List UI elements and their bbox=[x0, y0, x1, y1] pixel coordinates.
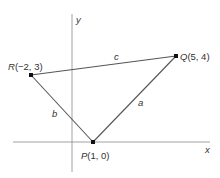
side-a bbox=[93, 56, 176, 142]
side-a-label: a bbox=[138, 97, 143, 108]
triangle-diagram: y x R(−2, 3) Q(5, 4) P(1, 0) a b c bbox=[0, 0, 220, 178]
x-axis-label: x bbox=[204, 144, 211, 155]
point-p-label: P(1, 0) bbox=[81, 150, 110, 161]
y-axis-label: y bbox=[75, 14, 82, 25]
point-q-label: Q(5, 4) bbox=[180, 51, 210, 62]
side-c-label: c bbox=[114, 51, 119, 62]
point-r-label: R(−2, 3) bbox=[8, 61, 43, 72]
side-c bbox=[31, 56, 176, 75]
point-q bbox=[174, 54, 178, 58]
side-b-label: b bbox=[52, 108, 57, 119]
side-b bbox=[31, 75, 93, 142]
point-p bbox=[91, 140, 95, 144]
point-r bbox=[29, 73, 33, 77]
